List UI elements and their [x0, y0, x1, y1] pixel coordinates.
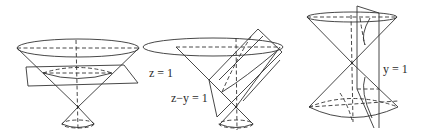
- parabola-back: [222, 35, 252, 92]
- figure-horizontal-plane: [17, 39, 139, 130]
- conic-sections-figure: z = 1 z−y = 1 y = 1: [0, 0, 422, 138]
- section-circle-back: [43, 68, 112, 74]
- upper-cone-right-edge: [352, 17, 397, 63]
- hyperbola-lower-branch: [364, 77, 372, 118]
- upper-cone-left-edge: [307, 17, 352, 63]
- plane-lower-edge: [243, 60, 280, 101]
- cone-axis: [351, 15, 353, 122]
- vertex: [77, 106, 79, 108]
- vertex: [351, 62, 353, 64]
- plane-label-z-minus-y-equals-1: z−y = 1: [171, 92, 208, 104]
- conic-sections-drawing: [0, 0, 422, 138]
- plane-y-1: [357, 6, 379, 128]
- plane-label-z-equals-1: z = 1: [149, 67, 173, 79]
- plane-label-y-equals-1: y = 1: [383, 63, 408, 75]
- section-circle-front: [43, 73, 112, 79]
- lower-cone-rim: [219, 120, 253, 128]
- lower-rim-diameter: [309, 101, 398, 107]
- plane-inner-edge: [219, 36, 263, 80]
- plane-z-1: [26, 65, 138, 86]
- lower-hidden-curve: [340, 93, 352, 120]
- lower-cone-right-edge: [78, 107, 94, 124]
- vertex: [235, 106, 237, 108]
- lower-rim-front: [309, 107, 398, 118]
- plane-bottom-edge: [357, 89, 374, 128]
- lower-cone-left-edge: [62, 107, 78, 124]
